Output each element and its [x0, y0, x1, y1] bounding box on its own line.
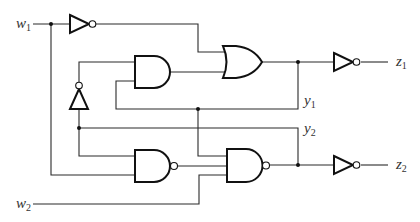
label-y2: y2	[302, 120, 316, 138]
junction-y2-branch	[77, 126, 81, 130]
wire-notw1-to-or	[96, 24, 226, 52]
not-gate-w1	[70, 15, 96, 33]
logic-circuit-diagram: w1 w2 z1 z2 y1 y2	[0, 0, 420, 222]
not-gate-z1	[334, 53, 360, 71]
or-gate	[223, 46, 262, 78]
nand-gate-2	[227, 149, 270, 182]
label-z1: z1	[395, 53, 407, 71]
wire-y2-to-nand1	[79, 128, 135, 156]
wires	[33, 24, 388, 204]
wire-inv-fb-to-and	[79, 62, 135, 82]
and-gate	[135, 56, 170, 88]
junction-y2-out	[296, 163, 300, 167]
junction-w1	[49, 22, 53, 26]
junction-y1-branch	[196, 107, 200, 111]
label-w1: w1	[16, 15, 31, 33]
label-z2: z2	[395, 156, 407, 174]
wire-y2-feedback	[79, 110, 298, 165]
inversion-bubble	[353, 59, 360, 66]
inversion-bubble	[171, 163, 178, 170]
inversion-bubble	[89, 21, 96, 28]
wire-w2	[33, 175, 227, 204]
inversion-bubble	[353, 162, 360, 169]
not-gate-z2	[334, 156, 360, 174]
inversion-bubble	[76, 82, 83, 89]
junction-y1-out	[296, 60, 300, 64]
label-w2: w2	[16, 195, 31, 213]
inversion-bubble	[263, 162, 270, 169]
junctions	[49, 22, 300, 167]
not-gate-feedback	[70, 82, 88, 109]
wire-y1-to-nand2	[198, 109, 227, 156]
wire-w1-branch	[51, 24, 135, 175]
nand-gate-1	[135, 150, 178, 182]
label-y1: y1	[302, 92, 316, 110]
